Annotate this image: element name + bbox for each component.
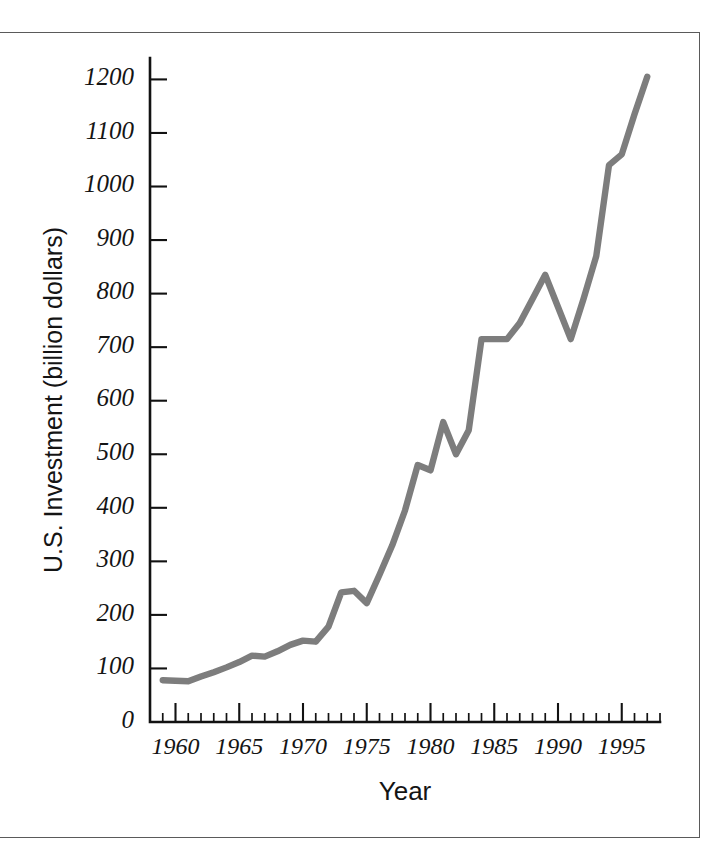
x-tick-label-1980: 1980 <box>407 733 455 759</box>
y-tick-label-1200: 1200 <box>84 63 135 90</box>
x-tick-label-1985: 1985 <box>470 733 518 759</box>
x-tick-label-1970: 1970 <box>279 733 327 759</box>
y-tick-label-800: 800 <box>97 277 135 304</box>
data-series-line <box>163 77 648 682</box>
axis-spines <box>150 58 660 722</box>
x-tick-label-1960: 1960 <box>152 733 200 759</box>
y-tick-label-500: 500 <box>97 438 135 465</box>
x-tick-label-1990: 1990 <box>534 733 582 759</box>
y-tick-label-1100: 1100 <box>86 117 135 144</box>
x-axis-tick-labels: 19601965197019751980198519901995 <box>152 733 646 759</box>
chart-area: 0100200300400500600700800900100011001200… <box>0 0 715 854</box>
y-tick-label-0: 0 <box>122 706 135 733</box>
x-tick-label-1995: 1995 <box>598 733 646 759</box>
y-axis-tick-labels: 0100200300400500600700800900100011001200 <box>84 63 135 733</box>
x-tick-label-1965: 1965 <box>215 733 263 759</box>
x-axis-minor-ticks <box>163 713 660 722</box>
x-axis-title: Year <box>379 776 432 806</box>
y-tick-label-200: 200 <box>97 599 135 626</box>
y-tick-label-700: 700 <box>97 331 135 358</box>
y-tick-label-400: 400 <box>97 492 135 519</box>
y-tick-label-100: 100 <box>97 652 135 679</box>
y-tick-label-1000: 1000 <box>84 170 135 197</box>
y-tick-label-600: 600 <box>97 384 135 411</box>
y-axis-ticks <box>150 79 167 668</box>
line-chart-plot: 0100200300400500600700800900100011001200… <box>0 0 715 854</box>
x-axis-major-ticks <box>176 703 622 722</box>
y-tick-label-300: 300 <box>96 545 135 572</box>
y-tick-label-900: 900 <box>97 224 135 251</box>
x-tick-label-1975: 1975 <box>343 733 391 759</box>
y-axis-title: U.S. Investment (billion dollars) <box>39 227 67 573</box>
